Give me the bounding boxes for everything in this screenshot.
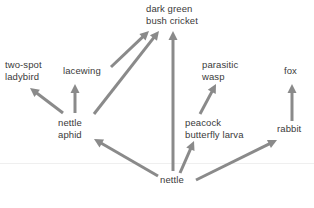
arrow-layer	[0, 0, 314, 208]
node-label-peacock-butterfly-larva: peacock butterfly larva	[185, 117, 251, 140]
node-label-lacewing: lacewing	[63, 65, 111, 77]
node-label-nettle-aphid: nettle aphid	[58, 117, 92, 140]
node-label-rabbit: rabbit	[277, 123, 309, 135]
food-web-diagram: two-spot ladybirdlacewingdark green bush…	[0, 0, 314, 208]
node-label-fox: fox	[284, 65, 306, 77]
arrow-nettle-aphid-to-lacewing	[71, 84, 80, 113]
arrow-rabbit-to-fox	[288, 84, 297, 121]
arrow-nettle-to-nettle-aphid	[94, 139, 158, 176]
node-label-dark-green-bush-cricket: dark green bush cricket	[146, 3, 208, 26]
arrow-peacock-butterfly-larva-to-parasitic-wasp	[200, 84, 216, 114]
node-label-nettle: nettle	[160, 174, 192, 186]
arrow-nettle-to-rabbit	[196, 140, 277, 180]
node-label-parasitic-wasp: parasitic wasp	[202, 59, 242, 82]
arrow-nettle-aphid-to-two-spot-ladybird	[30, 88, 63, 113]
node-label-two-spot-ladybird: two-spot ladybird	[5, 59, 57, 82]
arrow-nettle-to-dark-green-bush-cricket	[169, 31, 178, 171]
arrow-nettle-to-peacock-butterfly-larva	[180, 141, 195, 173]
